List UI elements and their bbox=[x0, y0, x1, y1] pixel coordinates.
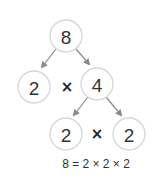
arrow-4-to-2-left bbox=[74, 97, 88, 115]
arrow-4-to-2-right bbox=[106, 97, 121, 115]
node-level2-left: 2 bbox=[50, 118, 82, 150]
equation-caption: 8 = 2 × 2 × 2 bbox=[62, 157, 130, 171]
multiply-operator-level1: × bbox=[61, 78, 74, 96]
node-level2-right: 2 bbox=[113, 118, 145, 150]
multiply-operator-level2: × bbox=[91, 125, 104, 143]
node-level2-right-label: 2 bbox=[124, 125, 135, 146]
node-level1-right-label: 4 bbox=[92, 75, 103, 96]
arrow-8-to-2 bbox=[42, 49, 56, 67]
node-level1-right: 4 bbox=[81, 68, 113, 100]
node-root-label: 8 bbox=[61, 27, 72, 48]
node-root: 8 bbox=[50, 20, 82, 52]
node-level1-left: 2 bbox=[18, 71, 50, 103]
node-level2-left-label: 2 bbox=[61, 125, 72, 146]
arrow-8-to-4 bbox=[76, 49, 89, 64]
node-level1-left-label: 2 bbox=[29, 78, 40, 99]
factor-tree-diagram: 8 2 × 4 2 × 2 8 = 2 × 2 × 2 bbox=[0, 0, 157, 178]
